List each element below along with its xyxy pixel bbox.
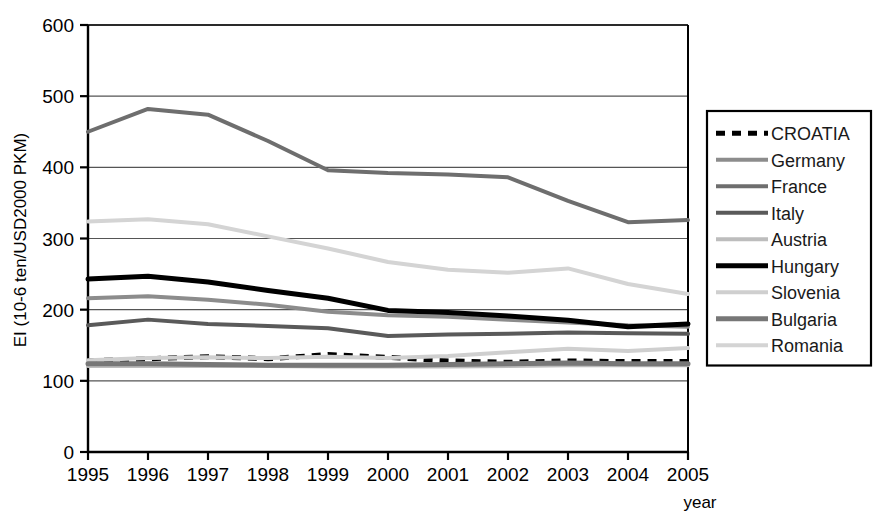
legend-label-italy: Italy xyxy=(771,204,804,224)
x-tick-label: 2003 xyxy=(547,464,589,485)
y-tick-label: 200 xyxy=(42,300,74,321)
x-tick-label: 2001 xyxy=(427,464,469,485)
x-tick-label: 2004 xyxy=(607,464,650,485)
legend-label-hungary: Hungary xyxy=(771,257,839,277)
legend-label-slovenia: Slovenia xyxy=(771,283,841,303)
legend-label-germany: Germany xyxy=(771,151,845,171)
legend-label-croatia: CROATIA xyxy=(771,124,850,144)
y-tick-label: 300 xyxy=(42,229,74,250)
chart-container: 0100200300400500600 19951996199719981999… xyxy=(0,0,878,525)
x-tick-label: 1998 xyxy=(247,464,289,485)
x-tick-label: 2000 xyxy=(367,464,409,485)
legend-label-bulgaria: Bulgaria xyxy=(771,310,838,330)
y-tick-label: 400 xyxy=(42,157,74,178)
x-tick-label: 2002 xyxy=(487,464,529,485)
legend-label-france: France xyxy=(771,177,827,197)
y-tick-label: 500 xyxy=(42,86,74,107)
x-axis-title: year xyxy=(683,493,716,512)
y-axis-title: EI (10-6 ten/USD2000 PKM) xyxy=(11,133,30,347)
chart-legend: CROATIAGermanyFranceItalyAustriaHungaryS… xyxy=(707,111,871,366)
legend-label-austria: Austria xyxy=(771,230,828,250)
x-tick-label: 1997 xyxy=(187,464,229,485)
y-tick-label: 600 xyxy=(42,15,74,36)
y-tick-label: 100 xyxy=(42,371,74,392)
x-axis-tick-labels: 1995199619971998199920002001200220032004… xyxy=(67,464,709,485)
line-chart: 0100200300400500600 19951996199719981999… xyxy=(0,0,878,525)
x-tick-label: 1996 xyxy=(127,464,169,485)
y-tick-label: 0 xyxy=(63,442,74,463)
x-tick-label: 1995 xyxy=(67,464,109,485)
x-tick-label: 2005 xyxy=(667,464,709,485)
series-line-bulgaria xyxy=(88,363,688,365)
x-tick-label: 1999 xyxy=(307,464,349,485)
legend-label-romania: Romania xyxy=(771,336,844,356)
